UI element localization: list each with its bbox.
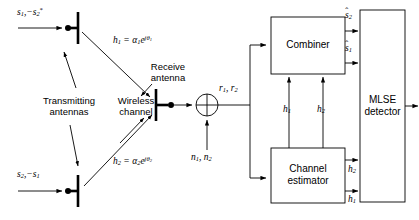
combiner-output-shat1-label: ̂s1: [345, 43, 352, 54]
estimator-to-combiner-h2-label: h2: [317, 104, 325, 115]
channel-gain-h2-label: h2 = α2ejθ2: [113, 155, 152, 166]
summing-junction: [196, 94, 218, 116]
receive-antenna-label: Receive antenna: [138, 62, 198, 83]
noise-label: n1, n2: [191, 152, 212, 163]
channel-gain-h1-label: h1 = α1ejθ1: [113, 34, 152, 45]
transmit-antenna-bottom: [18, 175, 78, 207]
estimator-to-mlse-h2-label: h2: [348, 164, 356, 175]
pointer-transmitting-antennas-up: [64, 52, 76, 88]
block-diagram-figure: s1,−s2* s2,−s1 Transmitting antennas Wir…: [0, 0, 419, 220]
source-label-top: s1,−s2*: [17, 6, 43, 17]
transmitting-antennas-label: Transmitting antennas: [23, 96, 115, 117]
mlse-detector-label: MLSE detector: [360, 94, 405, 118]
channel-estimator-label: Channel estimator: [271, 163, 345, 187]
estimator-to-mlse-h1-label: h1: [348, 194, 356, 205]
pointer-wireless-channel-down: [120, 118, 144, 143]
combiner-label: Combiner: [271, 39, 345, 51]
combiner-output-shat2-label: ̂s2: [345, 10, 352, 21]
estimator-to-combiner-h1-label: h1: [283, 104, 291, 115]
propagation-path-h2: [84, 115, 152, 186]
received-signal-label: r1, r2: [219, 83, 238, 94]
received-signal-bus: [218, 45, 266, 178]
pointer-transmitting-antennas-down: [70, 125, 78, 166]
wireless-channel-label: Wireless channel: [105, 96, 167, 117]
source-label-bottom: s2,−s1: [17, 169, 40, 180]
